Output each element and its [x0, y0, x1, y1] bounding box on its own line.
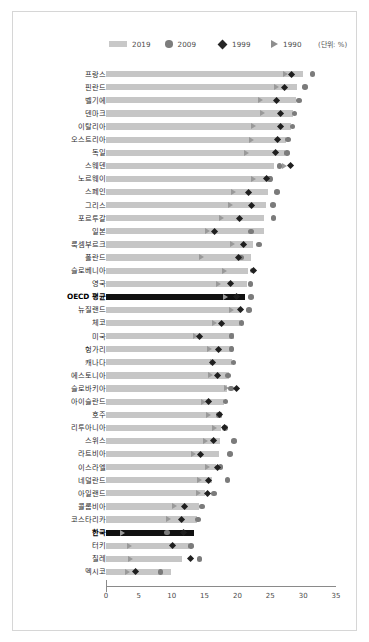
bar-2019 — [106, 556, 182, 562]
circle-marker-2009-icon — [195, 517, 201, 523]
x-axis-tick-label: 25 — [258, 592, 282, 600]
chart-row: 이탈리아 — [13, 120, 358, 133]
triangle-marker-1990-icon — [230, 241, 235, 247]
row-label: 콜롬비아 — [18, 500, 106, 513]
row-label: 라트비아 — [18, 447, 106, 460]
triangle-marker-1990-icon — [191, 451, 196, 457]
circle-marker-2009-icon — [270, 202, 276, 208]
triangle-marker-1990-icon — [199, 254, 204, 260]
triangle-marker-1990-icon — [251, 123, 256, 129]
bar-2019 — [106, 176, 272, 182]
chart-row: 한국 — [13, 526, 358, 539]
row-label: 폴란드 — [18, 251, 106, 264]
row-label: 뉴질랜드 — [18, 303, 106, 316]
triangle-marker-1990-icon — [206, 412, 211, 418]
circle-marker-2009-icon — [285, 137, 291, 143]
triangle-marker-1990-icon — [197, 477, 202, 483]
row-label: 핀란드 — [18, 81, 106, 94]
chart-row: 캐나다 — [13, 356, 358, 369]
bar-2019 — [106, 425, 221, 431]
x-axis-zero-tick — [106, 580, 107, 592]
chart-row: 일본 — [13, 225, 358, 238]
circle-marker-2009-icon — [302, 84, 308, 90]
row-label: 리투아니아 — [18, 421, 106, 434]
chart-row: 벨기에 — [13, 94, 358, 107]
row-label: 아이슬란드 — [18, 395, 106, 408]
chart-row: 코스타리카 — [13, 513, 358, 526]
row-label: 이스라엘 — [18, 461, 106, 474]
row-label: 이탈리아 — [18, 120, 106, 133]
bar-2019 — [106, 97, 296, 103]
triangle-marker-1990-icon — [260, 110, 265, 116]
chart-row: 헝가리 — [13, 343, 358, 356]
x-axis-tick-label: 30 — [291, 592, 315, 600]
row-label: 포르투갈 — [18, 212, 106, 225]
row-label: 네덜란드 — [18, 474, 106, 487]
triangle-marker-1990-icon — [229, 307, 234, 313]
chart-row: 프랑스 — [13, 68, 358, 81]
chart-row: 체코 — [13, 316, 358, 329]
chart-row: 덴마크 — [13, 107, 358, 120]
row-label: 터키 — [18, 539, 106, 552]
bar-2019 — [106, 228, 264, 234]
diamond-marker-1999-icon — [233, 385, 240, 392]
x-axis-line — [106, 586, 336, 587]
triangle-marker-1990-icon — [244, 150, 249, 156]
chart-row: 독일 — [13, 146, 358, 159]
triangle-marker-1990-icon — [205, 228, 210, 234]
triangle-marker-1990-icon — [128, 556, 133, 562]
row-label: 스웨덴 — [18, 159, 106, 172]
circle-marker-2009-icon — [225, 373, 231, 379]
chart-row: 아일랜드 — [13, 487, 358, 500]
circle-marker-2009-icon — [292, 111, 298, 117]
chart-row: 리투아니아 — [13, 421, 358, 434]
bar-2019 — [106, 307, 241, 313]
circle-marker-2009-icon — [229, 346, 235, 352]
row-label: 영국 — [18, 277, 106, 290]
circle-marker-2009-icon — [158, 569, 164, 575]
circle-marker-2009-icon — [246, 307, 252, 313]
bar-2019 — [106, 281, 247, 287]
row-label: 벨기에 — [18, 94, 106, 107]
triangle-marker-1990-icon — [222, 268, 227, 274]
row-label: OECD 평균 — [18, 290, 106, 303]
chart-row: 룩셈부르크 — [13, 238, 358, 251]
triangle-marker-1990-icon — [207, 346, 212, 352]
bar-2019 — [106, 543, 189, 549]
triangle-marker-1990-icon — [172, 503, 177, 509]
circle-marker-2009-icon — [231, 438, 237, 444]
circle-marker-2009-icon — [284, 150, 290, 156]
row-label: 덴마크 — [18, 107, 106, 120]
circle-marker-2009-icon — [211, 491, 217, 497]
bar-2019 — [106, 464, 216, 470]
circle-marker-2009-icon — [248, 294, 254, 300]
bar-2019 — [106, 202, 266, 208]
triangle-marker-1990-icon — [208, 372, 213, 378]
bar-2019 — [106, 150, 285, 156]
triangle-marker-1990-icon — [219, 215, 224, 221]
circle-marker-2009-icon — [296, 98, 302, 104]
chart-row: 스페인 — [13, 185, 358, 198]
row-label: 스페인 — [18, 185, 106, 198]
triangle-marker-1990-icon — [203, 438, 208, 444]
chart-row: 그리스 — [13, 199, 358, 212]
chart-row: 라트비아 — [13, 447, 358, 460]
circle-marker-2009-icon — [248, 229, 254, 235]
row-label: 독일 — [18, 146, 106, 159]
triangle-marker-1990-icon — [120, 530, 125, 536]
bar-2019 — [106, 385, 227, 391]
row-label: 슬로베니아 — [18, 264, 106, 277]
diamond-marker-1999-icon — [287, 162, 294, 169]
row-label: 칠레 — [18, 552, 106, 565]
triangle-marker-1990-icon — [249, 137, 254, 143]
chart-row: 핀란드 — [13, 81, 358, 94]
circle-marker-2009-icon — [197, 556, 203, 562]
circle-marker-2009-icon — [290, 124, 296, 130]
chart-row: 스위스 — [13, 434, 358, 447]
chart-row: 폴란드 — [13, 251, 358, 264]
chart-row: 에스토니아 — [13, 369, 358, 382]
chart-row: 슬로바키아 — [13, 382, 358, 395]
chart-row: 포르투갈 — [13, 212, 358, 225]
triangle-marker-1990-icon — [228, 202, 233, 208]
circle-marker-2009-icon — [310, 71, 316, 77]
